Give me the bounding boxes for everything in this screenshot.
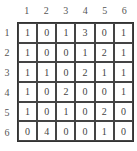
col-header: 6 <box>115 4 135 18</box>
row-header: 3 <box>0 62 14 82</box>
matrix-cell: 0 <box>56 43 75 63</box>
matrix-cell: 0 <box>75 102 94 122</box>
matrix-cell: 1 <box>114 43 133 63</box>
matrix-cell: 2 <box>75 62 94 82</box>
matrix-cell: 1 <box>114 23 133 43</box>
matrix-cell: 1 <box>18 43 37 63</box>
col-header: 4 <box>76 4 96 18</box>
row-headers: 1 2 3 4 5 6 <box>0 22 14 142</box>
matrix-cell: 0 <box>56 121 75 141</box>
matrix-cell: 3 <box>75 23 94 43</box>
col-header: 5 <box>95 4 115 18</box>
matrix-cell: 0 <box>56 62 75 82</box>
matrix-cell: 1 <box>37 62 56 82</box>
matrix-cell: 1 <box>114 62 133 82</box>
row-header: 6 <box>0 122 14 142</box>
matrix-cell: 1 <box>18 62 37 82</box>
matrix-cell: 0 <box>37 23 56 43</box>
matrix-cell: 0 <box>95 82 114 102</box>
matrix-cell: 1 <box>18 82 37 102</box>
matrix-cell: 0 <box>18 121 37 141</box>
matrix-grid: 1 0 1 3 0 1 1 0 0 1 2 1 1 1 0 2 1 1 1 0 … <box>17 22 134 142</box>
matrix-cell: 0 <box>114 121 133 141</box>
matrix-cell: 0 <box>114 102 133 122</box>
matrix-cell: 1 <box>56 23 75 43</box>
matrix-cell: 1 <box>56 102 75 122</box>
matrix-cell: 1 <box>18 102 37 122</box>
matrix-cell: 0 <box>75 121 94 141</box>
matrix-cell: 4 <box>37 121 56 141</box>
col-header: 1 <box>17 4 37 18</box>
row-header: 1 <box>0 22 14 42</box>
matrix-cell: 0 <box>95 23 114 43</box>
col-header: 2 <box>37 4 57 18</box>
matrix-cell: 0 <box>37 102 56 122</box>
matrix-cell: 1 <box>95 121 114 141</box>
matrix-cell: 1 <box>18 23 37 43</box>
col-header: 3 <box>56 4 76 18</box>
matrix-cell: 0 <box>37 82 56 102</box>
matrix-cell: 0 <box>37 43 56 63</box>
matrix-cell: 2 <box>56 82 75 102</box>
matrix-cell: 2 <box>95 102 114 122</box>
row-header: 2 <box>0 42 14 62</box>
matrix-cell: 1 <box>75 43 94 63</box>
column-headers: 1 2 3 4 5 6 <box>17 4 134 18</box>
matrix-cell: 1 <box>95 62 114 82</box>
matrix-cell: 1 <box>114 82 133 102</box>
matrix-cell: 2 <box>95 43 114 63</box>
row-header: 4 <box>0 82 14 102</box>
matrix-cell: 0 <box>75 82 94 102</box>
row-header: 5 <box>0 102 14 122</box>
